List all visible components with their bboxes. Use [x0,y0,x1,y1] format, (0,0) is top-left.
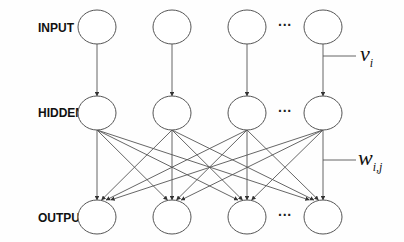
hidden-output-edge [106,130,247,200]
output-node [304,200,342,234]
hidden-output-edge [172,130,314,200]
output-node [228,200,266,234]
output-ellipsis: ··· [278,207,292,223]
input-ellipsis: ··· [278,17,292,33]
input-node [228,10,266,44]
hidden-node [228,96,266,130]
hidden-node [78,96,116,130]
input-node [304,10,342,44]
hidden-output-edge [102,130,173,200]
hidden-output-edge [97,130,168,200]
neural-network-diagram: INPUT HIDDEN OUTPUT ········· viwi,j [0,0,404,242]
hidden-output-edge [247,130,318,200]
hidden-output-edge [172,130,243,200]
hidden-output-edge [252,130,323,200]
hidden-ellipsis: ··· [278,103,292,119]
weight-w-label: wi,j [358,145,383,174]
input-node [78,10,116,44]
hidden-node [153,96,191,130]
hidden-output-edge [177,130,248,200]
weight-v-label: vi [360,41,373,70]
input-node [153,10,191,44]
hidden-node [304,96,342,130]
network-graph: ········· viwi,j [0,0,404,242]
output-node [78,200,116,234]
output-node [153,200,191,234]
